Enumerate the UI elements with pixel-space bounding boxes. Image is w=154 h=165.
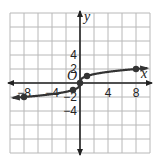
data-point [133,66,139,72]
x-axis-label: x [140,66,148,81]
origin-label: O [67,68,77,83]
x-tick-label: 4 [105,86,112,100]
y-axis-label: y [82,9,91,24]
y-tick-label: −4 [63,104,77,118]
cube-root-graph: −8−44842−2−4 x y O [0,0,154,165]
data-point [21,94,27,100]
x-tick-label: 8 [133,86,140,100]
data-point [70,87,76,93]
data-point [84,73,90,79]
y-tick-label: 4 [70,48,77,62]
data-point [77,80,83,86]
